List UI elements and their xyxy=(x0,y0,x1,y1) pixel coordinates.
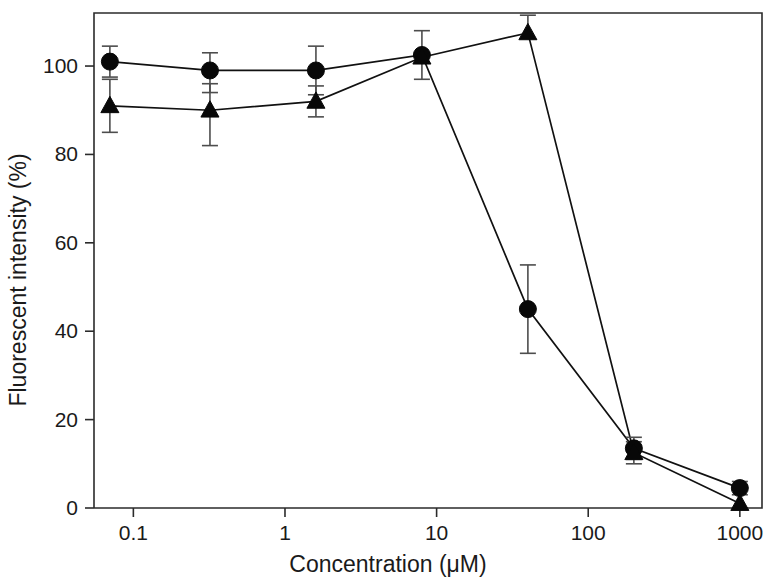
x-tick-label: 10 xyxy=(425,521,448,544)
data-point-circle xyxy=(307,62,324,79)
x-tick-label: 1 xyxy=(279,521,291,544)
chart-background xyxy=(0,0,776,581)
y-tick-label: 20 xyxy=(55,408,78,431)
data-point-circle xyxy=(519,301,536,318)
data-point-circle xyxy=(201,62,218,79)
y-tick-label: 0 xyxy=(66,496,78,519)
data-point-circle xyxy=(101,53,118,70)
y-tick-label: 40 xyxy=(55,319,78,342)
x-tick-label: 0.1 xyxy=(119,521,148,544)
y-tick-label: 60 xyxy=(55,231,78,254)
y-tick-label: 80 xyxy=(55,142,78,165)
y-tick-label: 100 xyxy=(43,54,78,77)
figure-container: 0.11101001000 020406080100 Concentration… xyxy=(0,0,776,581)
chart-canvas: 0.11101001000 020406080100 Concentration… xyxy=(0,0,776,581)
x-tick-label: 1000 xyxy=(716,521,763,544)
y-axis-label: Fluorescent intensity (%) xyxy=(5,153,31,406)
x-tick-label: 100 xyxy=(571,521,606,544)
x-axis-label: Concentration (μM) xyxy=(289,551,486,577)
